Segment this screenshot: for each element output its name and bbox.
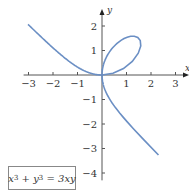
y-tick-label: −4 bbox=[82, 168, 97, 179]
y-tick-label: −3 bbox=[82, 143, 97, 154]
y-tick-label: −1 bbox=[82, 94, 97, 105]
x-axis-label: x bbox=[185, 63, 189, 73]
y-axis-arrow-icon bbox=[100, 9, 105, 15]
x-tick-label: −3 bbox=[21, 78, 36, 89]
y-tick-label: −2 bbox=[82, 119, 97, 130]
folium-chart: xy−3−2−112321−1−2−3−4 x3 + y3 = 3xy bbox=[0, 0, 189, 194]
y-tick-label: 1 bbox=[91, 45, 97, 56]
x-axis-arrow-icon bbox=[183, 73, 189, 78]
eq-rhs: = 3xy bbox=[43, 173, 75, 184]
eq-plus: + bbox=[18, 173, 33, 184]
equation-label: x3 + y3 = 3xy bbox=[8, 166, 76, 190]
axes: xy−3−2−112321−1−2−3−4 bbox=[21, 5, 189, 180]
x-tick-label: −1 bbox=[70, 78, 85, 89]
x-tick-label: −2 bbox=[46, 78, 61, 89]
plot-area: xy−3−2−112321−1−2−3−4 bbox=[0, 0, 189, 194]
folium-curve bbox=[28, 24, 158, 155]
x-tick-label: 1 bbox=[123, 78, 129, 89]
y-axis-label: y bbox=[106, 5, 113, 15]
x-tick-label: 2 bbox=[148, 78, 154, 89]
y-tick-label: 2 bbox=[91, 21, 97, 32]
x-tick-label: 3 bbox=[172, 78, 178, 89]
